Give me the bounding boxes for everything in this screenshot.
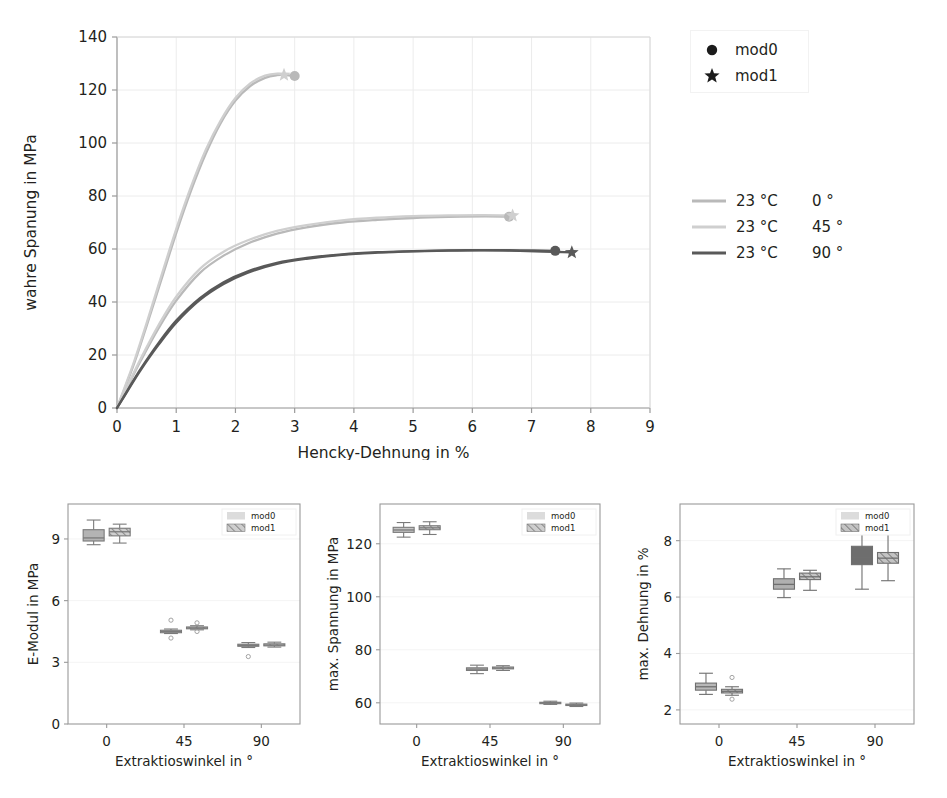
x-tick-label: 4	[349, 418, 359, 436]
y-tick-label: 6	[51, 593, 60, 609]
line-legend-svg: 23 °C0 °23 °C45 °23 °C90 °	[690, 185, 940, 265]
boxplot-mod1-90	[566, 703, 587, 706]
legend-solid-swatch	[227, 512, 245, 520]
x-axis-label: Extraktioswinkel in °	[421, 753, 559, 769]
stress-strain-chart: 0204060801001201400123456789Hencky-Dehnu…	[0, 0, 660, 460]
boxplot-mod0-90	[238, 643, 259, 659]
y-tick-label: 3	[51, 654, 60, 670]
legend-angle-label: 45 °	[812, 218, 843, 236]
endpoint-circle-marker	[290, 71, 300, 81]
y-tick-label: 80	[355, 642, 372, 658]
legend-label: mod0	[251, 511, 275, 521]
boxplot-mod1-0	[109, 524, 130, 543]
stress-strain-panel: 0204060801001201400123456789Hencky-Dehnu…	[0, 0, 660, 460]
x-tick-label: 3	[290, 418, 300, 436]
endpoint-star-marker	[277, 68, 291, 81]
max-dehnung-boxplot: 246804590Extraktioswinkel in °max. Dehnu…	[632, 482, 947, 798]
boxplot-mod1-0	[722, 675, 743, 701]
y-axis-label: max. Dehnung in %	[635, 547, 651, 680]
y-tick-label: 60	[88, 240, 107, 258]
legend-label: mod0	[735, 41, 778, 59]
x-axis-label: Extraktioswinkel in °	[728, 753, 866, 769]
legend-label: mod0	[865, 511, 889, 521]
marker-legend-svg: mod0mod1	[690, 30, 840, 100]
y-tick-label: 4	[663, 645, 672, 661]
x-tick-label: 9	[645, 418, 655, 436]
outlier-marker	[169, 618, 173, 622]
x-axis-label: Extraktioswinkel in °	[115, 753, 253, 769]
boxplot-mod0-90	[851, 530, 872, 589]
marker-legend: mod0mod1	[690, 30, 840, 100]
legend-solid-swatch	[527, 512, 545, 520]
boxplot-mod0-90	[540, 701, 561, 704]
outlier-marker	[730, 697, 734, 701]
boxplot-mod0-0	[695, 673, 716, 694]
y-tick-label: 0	[51, 716, 60, 732]
boxplot-mod0-45	[466, 665, 487, 673]
endpoint-circle-marker	[550, 246, 560, 256]
x-tick-label: 90	[253, 733, 270, 749]
boxplot-mod1-45	[493, 666, 514, 671]
y-tick-label: 6	[663, 589, 672, 605]
x-tick-label: 45	[481, 733, 498, 749]
x-tick-label: 2	[231, 418, 241, 436]
e-modul-boxplot: 036904590Extraktioswinkel in °E-Modul in…	[22, 482, 322, 798]
box	[83, 530, 104, 541]
legend-label: mod0	[551, 511, 575, 521]
boxplot-mod0-45	[773, 569, 794, 598]
boxplot-mod1-45	[800, 570, 821, 590]
legend-temp-label: 23 °C	[736, 218, 778, 236]
curves-group	[117, 68, 579, 408]
y-tick-label: 120	[78, 81, 107, 99]
boxplot-mod0-0	[83, 520, 104, 545]
legend-label: mod1	[735, 67, 778, 85]
boxplot-mod1-90	[264, 642, 285, 647]
boxplot-mod0-0	[393, 523, 414, 538]
outlier-marker	[195, 621, 199, 625]
x-tick-label: 90	[866, 733, 883, 749]
x-tick-label: 6	[468, 418, 478, 436]
curve-23-c-90-mod0	[117, 250, 555, 408]
x-tick-label: 90	[555, 733, 572, 749]
max-spannung-boxplot: 608010012004590Extraktioswinkel in °max.…	[322, 482, 622, 798]
x-tick-label: 0	[715, 733, 724, 749]
outlier-marker	[730, 675, 734, 679]
x-tick-label: 45	[175, 733, 192, 749]
y-tick-label: 9	[51, 531, 60, 547]
y-axis-label: wahre Spanung in MPa	[22, 134, 40, 311]
box	[851, 546, 872, 564]
curve-23-c-90-mod1	[117, 250, 572, 408]
line-legend: 23 °C0 °23 °C45 °23 °C90 °	[690, 185, 940, 265]
legend-temp-label: 23 °C	[736, 244, 778, 262]
max-spannung-panel: 608010012004590Extraktioswinkel in °max.…	[322, 482, 622, 798]
x-axis-label: Hencky-Dehnung in %	[298, 444, 470, 460]
legend-circle-icon	[707, 45, 717, 55]
boxplot-mod1-45	[187, 621, 208, 634]
plot-frame	[380, 504, 600, 724]
legend-label: mod1	[551, 523, 575, 533]
legend-hatched-swatch	[841, 524, 859, 532]
plot-frame	[680, 504, 914, 724]
boxplot-mod1-0	[419, 522, 440, 535]
x-tick-label: 45	[788, 733, 805, 749]
legend-temp-label: 23 °C	[736, 192, 778, 210]
legend-hatched-swatch	[527, 524, 545, 532]
y-tick-label: 40	[88, 293, 107, 311]
legend-label: mod1	[865, 523, 889, 533]
legend-label: mod1	[251, 523, 275, 533]
legend-solid-swatch	[841, 512, 859, 520]
outlier-marker	[169, 636, 173, 640]
y-tick-label: 2	[663, 702, 672, 718]
y-tick-label: 140	[78, 28, 107, 46]
max-dehnung-panel: 246804590Extraktioswinkel in °max. Dehnu…	[632, 482, 947, 798]
y-tick-label: 120	[346, 536, 372, 552]
legend-hatched-swatch	[227, 524, 245, 532]
x-tick-label: 8	[586, 418, 596, 436]
x-tick-label: 0	[112, 418, 122, 436]
x-tick-label: 7	[527, 418, 537, 436]
x-tick-label: 1	[171, 418, 181, 436]
legend-angle-label: 0 °	[812, 192, 834, 210]
x-tick-label: 5	[408, 418, 418, 436]
endpoint-star-marker	[565, 245, 579, 258]
y-tick-label: 100	[346, 589, 372, 605]
